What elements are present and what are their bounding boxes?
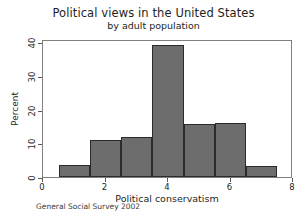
- bar: [59, 165, 90, 177]
- bar: [90, 140, 121, 177]
- chart-figure: Political views in the United States by …: [0, 0, 307, 216]
- y-tick-label: 20: [28, 105, 37, 116]
- x-tick-label: 6: [227, 183, 232, 192]
- y-tick-mark: [38, 77, 42, 78]
- x-tick-label: 0: [39, 183, 44, 192]
- bars-layer: [43, 41, 291, 177]
- y-tick-mark: [38, 43, 42, 44]
- chart-title: Political views in the United States: [0, 6, 307, 20]
- bar: [215, 123, 246, 177]
- plot-area: [42, 40, 292, 178]
- y-tick-label: 0: [28, 175, 37, 180]
- chart-subtitle: by adult population: [0, 20, 307, 31]
- y-tick-label: 40: [28, 38, 37, 49]
- y-tick-mark: [38, 111, 42, 112]
- y-tick-label: 30: [28, 72, 37, 83]
- bar: [184, 124, 215, 177]
- y-tick-mark: [38, 144, 42, 145]
- y-axis-label: Percent: [11, 92, 20, 126]
- x-tick-label: 8: [289, 183, 294, 192]
- bar: [246, 166, 277, 177]
- source-note: General Social Survey 2002: [36, 202, 140, 211]
- bar: [152, 45, 183, 177]
- x-tick-label: 2: [102, 183, 107, 192]
- bar: [121, 137, 152, 177]
- x-tick-label: 4: [164, 183, 169, 192]
- y-tick-label: 10: [28, 139, 37, 150]
